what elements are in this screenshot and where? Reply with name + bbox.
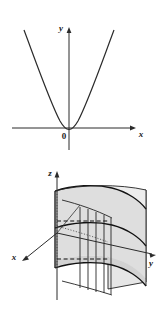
- x-axis-label: x: [138, 129, 144, 139]
- figure-canvas: y x 0: [0, 0, 166, 313]
- z-axis-label: z: [47, 168, 52, 178]
- origin-label: 0: [62, 131, 67, 141]
- figure-root: y x 0: [0, 0, 166, 313]
- x-axis-label-3d: x: [11, 252, 17, 262]
